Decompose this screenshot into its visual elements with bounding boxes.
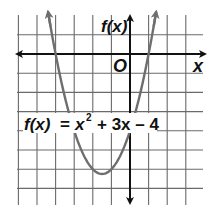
y-axis-label: f(x) [101,17,128,36]
origin-label: O [113,56,127,76]
curve-arrow-left [48,13,50,26]
function-graph: f(x) = x 2 + 3x – 4 f(x) O x [0,0,213,207]
equation-lhs: f(x) [24,115,51,134]
x-axis-label: x [192,56,204,76]
grid [17,15,203,205]
curve-arrow-right [154,13,156,26]
equation-x-base: x [74,115,86,134]
equation-rest: + 3x – 4 [97,115,159,134]
equation-exponent: 2 [86,112,92,123]
equation-equals: = [60,115,70,134]
equation-label: f(x) = x 2 + 3x – 4 [23,112,159,134]
